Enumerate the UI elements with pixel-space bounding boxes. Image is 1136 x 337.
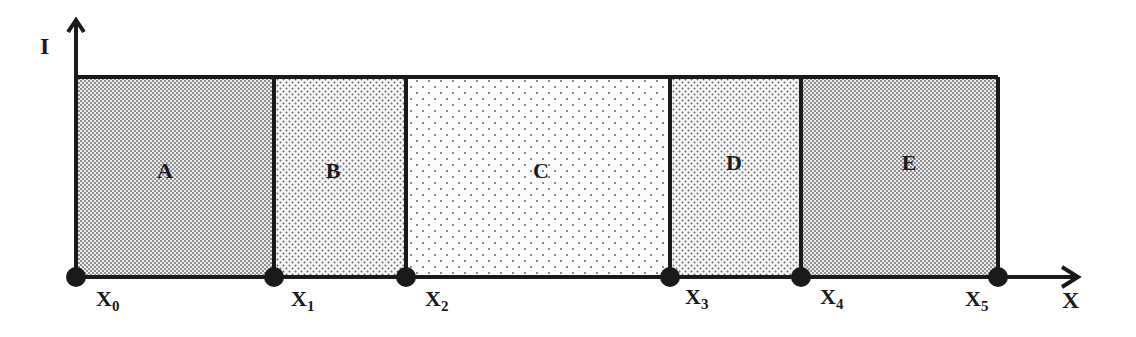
region-diagram: A B C D E I X X0 X1 X2 X3 X4 X5 bbox=[0, 0, 1136, 337]
region-a-label: A bbox=[157, 158, 173, 183]
point-x1 bbox=[264, 267, 284, 287]
point-label-x4: X4 bbox=[820, 284, 844, 312]
point-x2 bbox=[396, 267, 416, 287]
region-c-label: C bbox=[533, 158, 549, 183]
point-x5 bbox=[988, 267, 1008, 287]
point-label-x5: X5 bbox=[965, 286, 988, 314]
y-axis-label: I bbox=[40, 33, 49, 59]
region-a-fill bbox=[76, 77, 274, 277]
point-label-x1: X1 bbox=[291, 286, 314, 314]
point-x4 bbox=[791, 267, 811, 287]
point-label-x3: X3 bbox=[685, 284, 708, 312]
region-e-fill bbox=[801, 77, 998, 277]
region-d-label: D bbox=[726, 150, 742, 175]
point-x3 bbox=[660, 267, 680, 287]
point-label-x0: X0 bbox=[96, 286, 119, 314]
region-b-label: B bbox=[326, 158, 341, 183]
region-e-label: E bbox=[902, 150, 917, 175]
region-d-fill bbox=[670, 77, 801, 277]
point-x0 bbox=[66, 267, 86, 287]
point-labels: X0 X1 X2 X3 X4 X5 bbox=[96, 284, 988, 314]
point-label-x2: X2 bbox=[425, 286, 448, 314]
x-axis-label: X bbox=[1062, 287, 1080, 313]
